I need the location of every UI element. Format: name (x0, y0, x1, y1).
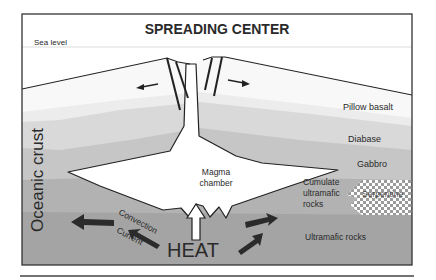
cumulate-label-3: rocks (303, 199, 323, 209)
serpentine-label: Serpentine (362, 189, 403, 199)
title: SPREADING CENTER (145, 21, 290, 37)
cumulate-label-2: ultramafic (303, 188, 341, 198)
magma-label-2: chamber (199, 178, 232, 188)
diabase-label: Diabase (348, 134, 381, 144)
magma-label-1: Magma (202, 167, 231, 177)
spreading-center-diagram: SPREADING CENTER Sea level Oceanic crust… (0, 0, 436, 280)
heat-label: HEAT (167, 239, 219, 261)
ultramafic-label: Ultramafic rocks (305, 232, 366, 242)
oceanic-crust-label: Oceanic crust (28, 128, 47, 232)
gabbro-label: Gabbro (357, 159, 387, 169)
cumulate-label-1: Cumulate (303, 177, 340, 187)
pillow-basalt-label: Pillow basalt (343, 102, 394, 112)
sea-level-label: Sea level (34, 38, 67, 47)
